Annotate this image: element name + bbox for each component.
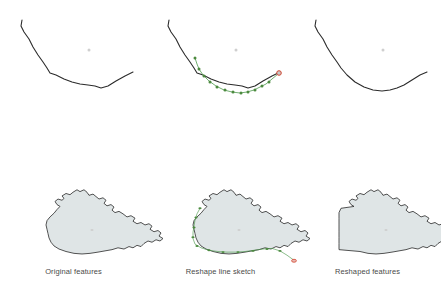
reshape-sketch-line[interactable] <box>195 58 278 93</box>
line-feature-original <box>21 20 133 88</box>
panel-reshaped-line <box>294 6 441 124</box>
sketch-vertex-0[interactable] <box>198 207 201 209</box>
reshape-features-figure: Original features Reshape line sketch Re… <box>0 0 441 296</box>
sketch-vertex-1[interactable] <box>194 217 197 219</box>
polygon-feature-original <box>46 190 163 254</box>
panel-reshaped-polygon <box>294 120 441 238</box>
sketch-vertex-8[interactable] <box>251 250 254 252</box>
sketch-endpoint-marker[interactable] <box>277 71 282 76</box>
caption-original-features: Original features <box>0 262 147 282</box>
panel-original-line <box>0 6 147 124</box>
panel-sketch-polygon <box>147 120 294 238</box>
sketch-vertex-5[interactable] <box>224 89 227 92</box>
reshape-sketch-endpoint[interactable] <box>277 71 282 76</box>
sketch-vertex-11[interactable] <box>268 81 271 84</box>
panel-sketch-line <box>147 6 294 124</box>
line-feature-reshaped <box>315 20 427 91</box>
caption-reshaped-features: Reshaped features <box>294 262 441 282</box>
sketch-vertex-9[interactable] <box>254 89 257 92</box>
sketch-vertex-3[interactable] <box>191 236 194 238</box>
center-marker-icon <box>382 49 385 52</box>
polygon-feature-original <box>193 190 310 254</box>
sketch-vertex-7[interactable] <box>240 92 243 95</box>
sketch-vertex-2[interactable] <box>203 75 206 78</box>
center-marker-icon <box>237 229 240 231</box>
sketch-vertex-0[interactable] <box>194 57 197 60</box>
sketch-vertex-3[interactable] <box>209 81 212 84</box>
caption-row: Original features Reshape line sketch Re… <box>0 262 441 282</box>
center-marker-icon <box>384 229 387 231</box>
sketch-vertex-8[interactable] <box>247 91 250 94</box>
center-marker-icon <box>235 49 238 52</box>
sketch-vertex-7[interactable] <box>236 251 239 253</box>
panel-original-polygon <box>0 120 147 238</box>
sketch-vertex-4[interactable] <box>195 245 198 247</box>
caption-reshape-line-sketch: Reshape line sketch <box>147 262 294 282</box>
center-marker-icon <box>88 49 91 52</box>
sketch-vertex-5[interactable] <box>207 249 210 251</box>
line-feature-original <box>168 20 280 88</box>
center-marker-icon <box>90 229 93 231</box>
sketch-vertex-6[interactable] <box>221 251 224 253</box>
sketch-vertex-10[interactable] <box>261 85 264 88</box>
sketch-vertex-1[interactable] <box>198 68 201 71</box>
reshape-sketch-vertices[interactable] <box>194 57 271 95</box>
polygon-feature-reshaped <box>339 190 441 254</box>
sketch-vertex-4[interactable] <box>216 86 219 89</box>
sketch-vertex-9[interactable] <box>265 248 268 250</box>
sketch-vertex-10[interactable] <box>278 250 281 252</box>
sketch-vertex-2[interactable] <box>192 226 195 228</box>
sketch-vertex-6[interactable] <box>232 91 235 94</box>
